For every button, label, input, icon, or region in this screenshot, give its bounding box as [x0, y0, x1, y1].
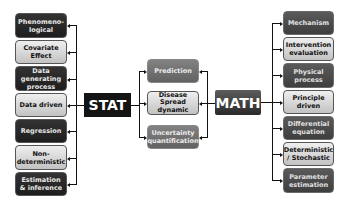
left-connector	[70, 131, 77, 132]
box-label: Deterministic / Stochastic	[284, 146, 333, 162]
left-box-non-deterministic: Non- deterministic	[15, 145, 67, 170]
box-label: Non- deterministic	[17, 150, 66, 166]
right-connector	[272, 49, 280, 50]
right-box-principle-driven: Principle driven	[283, 90, 334, 114]
right-connector	[272, 180, 280, 181]
box-label: Covariate Effect	[23, 44, 58, 60]
center-box-prediction: Prediction	[147, 59, 199, 83]
arrow-left-icon	[199, 70, 202, 74]
center-box-disease-spread-dynamic: Disease Spread dynamic	[147, 91, 199, 115]
math-hub: MATH	[215, 90, 261, 115]
right-connector	[272, 128, 280, 129]
left-connector	[70, 158, 77, 159]
left-connector	[70, 184, 77, 185]
box-label: Parameter estimation	[289, 173, 328, 189]
left-connector	[70, 79, 77, 80]
right-box-parameter-estimation: Parameter estimation	[283, 168, 334, 193]
right-connector	[272, 23, 280, 24]
arrow-left-icon	[67, 183, 70, 187]
right-connector	[272, 154, 280, 155]
box-label: Regression	[21, 127, 62, 135]
arrow-left-icon	[67, 157, 70, 161]
left-connector-stat	[70, 105, 84, 106]
left-box-regression: Regression	[15, 119, 67, 143]
box-label: Data generating process	[21, 67, 61, 91]
right-box-deterministic-stochastic: Deterministic / Stochastic	[283, 142, 334, 166]
stat-label: STAT	[89, 97, 127, 113]
center-right-connector	[202, 137, 208, 138]
right-connector	[272, 102, 280, 103]
center-right-bracket-line	[207, 71, 208, 138]
center-box-uncertainty-quantification: Uncertainty quantification	[147, 125, 199, 149]
box-label: Intervention evaluation	[286, 41, 331, 57]
box-label: Data driven	[20, 101, 63, 109]
right-box-differential-equation: Differential equation	[283, 116, 334, 140]
box-label: Estimation & inference	[20, 176, 63, 192]
box-label: Principle driven	[292, 94, 324, 110]
arrow-left-icon	[67, 78, 70, 82]
arrow-left-icon	[67, 51, 70, 55]
left-box-covariate-effect: Covariate Effect	[15, 40, 67, 64]
box-label: Physical process	[293, 68, 323, 84]
center-right-connector-math	[202, 103, 215, 104]
arrow-left-icon	[199, 102, 202, 106]
box-label: Uncertainty quantification	[147, 129, 198, 145]
stat-to-bracket-line	[131, 105, 139, 106]
math-to-bracket-line	[261, 102, 272, 103]
left-box-estimation-inference: Estimation & inference	[15, 172, 67, 196]
right-box-physical-process: Physical process	[283, 63, 334, 88]
arrow-left-icon	[67, 130, 70, 134]
box-label: Mechanism	[288, 19, 329, 27]
center-left-bracket-line	[139, 71, 140, 138]
box-label: Phenomeno- logical	[18, 18, 64, 34]
left-box-data-driven: Data driven	[15, 93, 67, 117]
box-label: Disease Spread dynamic	[158, 92, 189, 115]
left-box-phenomenological: Phenomeno- logical	[15, 13, 67, 38]
left-box-data-generating-process: Data generating process	[15, 66, 67, 91]
center-right-connector	[202, 71, 208, 72]
box-label: Prediction	[154, 67, 192, 75]
arrow-left-icon	[67, 24, 70, 28]
stat-hub: STAT	[84, 93, 131, 117]
right-connector	[272, 75, 280, 76]
left-connector	[70, 52, 77, 53]
box-label: Differential equation	[288, 120, 330, 136]
math-label: MATH	[216, 95, 261, 111]
left-connector	[70, 25, 77, 26]
arrow-left-icon	[67, 104, 70, 108]
right-box-mechanism: Mechanism	[283, 11, 334, 35]
right-box-intervention-evaluation: Intervention evaluation	[283, 37, 334, 61]
arrow-left-icon	[199, 136, 202, 140]
